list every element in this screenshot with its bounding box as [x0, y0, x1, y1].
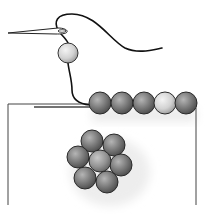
hanging-bead — [58, 43, 78, 63]
cluster-bead — [67, 146, 89, 168]
row-bead-1 — [89, 92, 111, 114]
beading-illustration — [0, 0, 207, 214]
row-bead-5 — [175, 92, 197, 114]
cluster-bead — [74, 167, 96, 189]
cluster-bead — [96, 171, 118, 193]
bead-row — [89, 92, 197, 114]
needle-icon — [8, 28, 67, 34]
row-bead-2 — [111, 92, 133, 114]
row-bead-4 — [154, 92, 176, 114]
cluster-center-bead — [89, 150, 111, 172]
row-bead-3 — [133, 92, 155, 114]
